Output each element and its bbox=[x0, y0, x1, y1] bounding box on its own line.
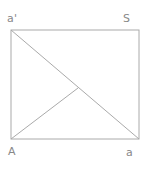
vertex-label-bottom-right: a bbox=[126, 147, 133, 158]
geometry-figure: a' S A a bbox=[0, 0, 149, 170]
vertex-label-top-left: a' bbox=[7, 13, 17, 24]
main-diagonal-line bbox=[11, 30, 139, 139]
corner-to-vertex-line bbox=[11, 88, 78, 139]
vertex-label-bottom-left: A bbox=[8, 146, 16, 157]
vertex-label-top-right: S bbox=[123, 13, 130, 24]
geometry-canvas bbox=[0, 0, 149, 170]
